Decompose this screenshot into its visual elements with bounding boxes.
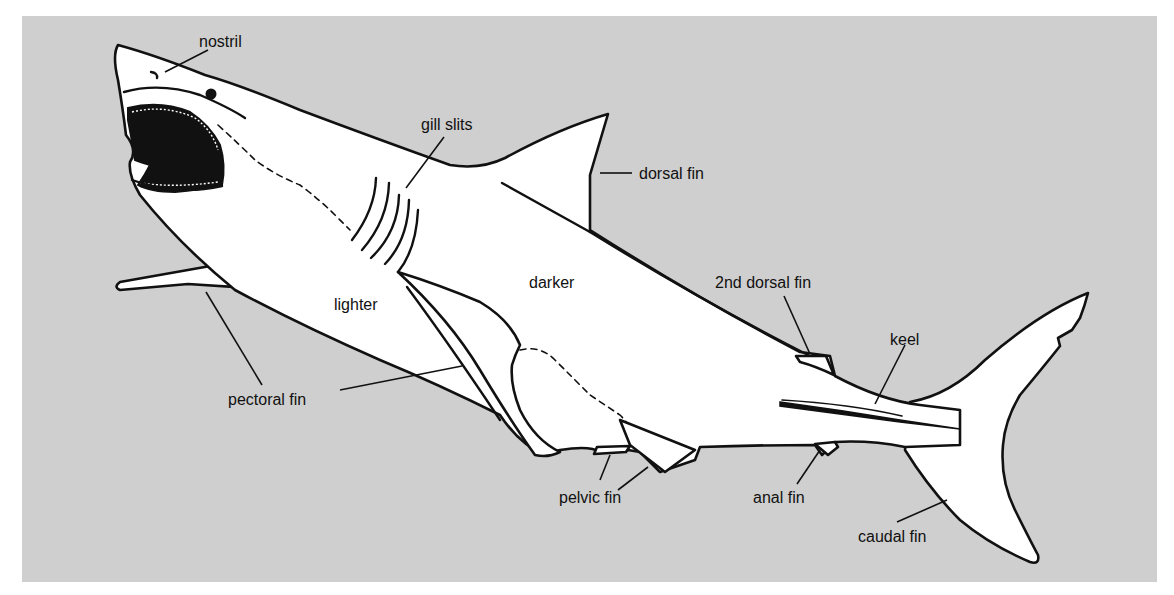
label-darker: darker	[529, 274, 575, 291]
label-caudal-fin: caudal fin	[858, 528, 927, 545]
shark-eye	[206, 89, 217, 100]
label-lighter: lighter	[334, 296, 378, 313]
label-anal-fin: anal fin	[753, 489, 805, 506]
label-pectoral-fin: pectoral fin	[228, 391, 306, 408]
pelvic-fin-small	[594, 446, 630, 454]
shark-diagram: nostril gill slits dorsal fin darker lig…	[0, 0, 1174, 595]
label-keel: keel	[890, 331, 919, 348]
label-nostril: nostril	[199, 33, 242, 50]
label-gill-slits: gill slits	[421, 116, 473, 133]
label-second-dorsal-fin: 2nd dorsal fin	[715, 274, 811, 291]
label-pelvic-fin: pelvic fin	[559, 489, 621, 506]
label-dorsal-fin: dorsal fin	[639, 165, 704, 182]
